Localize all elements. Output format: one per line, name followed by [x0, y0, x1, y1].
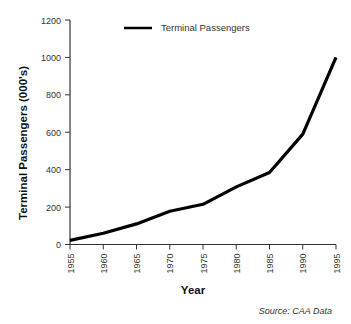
series-line-terminal-passengers: [70, 57, 336, 240]
legend: Terminal Passengers: [124, 22, 250, 33]
x-tick-label: 1975: [199, 254, 209, 274]
x-tick-label: 1985: [265, 254, 275, 274]
y-tick-label: 1000: [41, 53, 61, 63]
y-tick-label: 200: [46, 203, 61, 213]
source-annotation: Source: CAA Data: [259, 306, 332, 316]
x-tick-label: 1990: [298, 254, 308, 274]
y-axis-title: Terminal Passengers (000's): [17, 66, 29, 220]
y-axis-ticks: 020040060080010001200: [41, 16, 70, 251]
line-chart: 020040060080010001200 195519601965197019…: [0, 0, 351, 324]
y-tick-label: 400: [46, 165, 61, 175]
x-tick-label: 1955: [66, 254, 76, 274]
series-group: [70, 57, 336, 240]
y-tick-label: 0: [56, 240, 61, 250]
y-tick-label: 800: [46, 90, 61, 100]
x-axis-ticks: 195519601965197019751980198519901995: [66, 245, 342, 274]
y-tick-label: 600: [46, 128, 61, 138]
x-tick-label: 1960: [99, 254, 109, 274]
legend-label: Terminal Passengers: [161, 22, 250, 33]
x-tick-label: 1970: [165, 254, 175, 274]
x-tick-label: 1995: [332, 254, 342, 274]
y-tick-label: 1200: [41, 16, 61, 26]
x-tick-label: 1980: [232, 254, 242, 274]
x-axis-title: Year: [181, 284, 206, 296]
x-tick-label: 1965: [132, 254, 142, 274]
